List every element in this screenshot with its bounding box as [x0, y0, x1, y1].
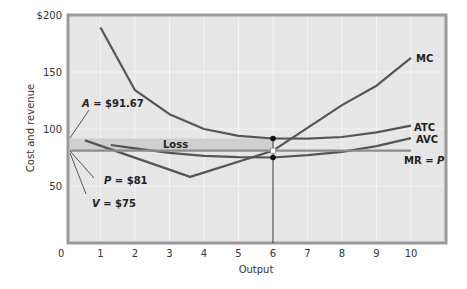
x-tick-label: 1: [97, 248, 103, 259]
mr-p-label: MR = P: [404, 155, 445, 166]
y-tick-label: 50: [49, 181, 62, 192]
y-axis-ticks: 50100150$200: [37, 10, 62, 192]
x-tick-label: 2: [132, 248, 138, 259]
x-axis-title: Output: [239, 264, 274, 275]
point-marker: [270, 136, 276, 142]
avc-label: AVC: [416, 134, 438, 145]
x-tick-label: 5: [235, 248, 241, 259]
x-tick-label: 9: [373, 248, 379, 259]
y-tick-label: $200: [37, 10, 62, 21]
v-value: = $75: [100, 198, 136, 209]
cost-revenue-chart: Loss A = $91.67 P = $81 V = $75 MC ATC A…: [0, 0, 467, 289]
y-axis-title: Cost and revenue: [25, 84, 36, 172]
y-tick-label: 100: [43, 124, 62, 135]
p-label: P = $81: [104, 175, 148, 186]
a-value: = $91.67: [90, 98, 144, 109]
a-label: A = $91.67: [81, 98, 144, 109]
x-tick-label: 8: [339, 248, 345, 259]
x-tick-label: 3: [166, 248, 172, 259]
atc-label: ATC: [414, 122, 435, 133]
x-tick-label: 4: [201, 248, 207, 259]
x-tick-label: 10: [405, 248, 418, 259]
point-markers: [270, 136, 276, 161]
y-tick-label: 150: [43, 67, 62, 78]
x-axis-ticks: 12345678910: [97, 248, 417, 259]
point-marker-hollow: [271, 148, 276, 153]
point-marker: [270, 155, 276, 161]
origin-label: 0: [58, 248, 64, 259]
loss-label: Loss: [163, 139, 188, 150]
mc-label: MC: [416, 53, 433, 64]
v-label: V = $75: [92, 198, 136, 209]
p-value: = $81: [111, 175, 147, 186]
x-tick-label: 6: [270, 248, 276, 259]
x-tick-label: 7: [304, 248, 310, 259]
